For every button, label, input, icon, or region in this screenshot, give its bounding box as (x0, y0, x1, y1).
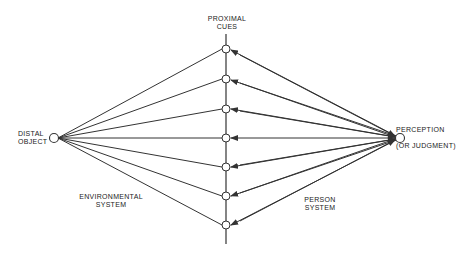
lens-model-diagram (0, 0, 461, 255)
perception-label: PERCEPTION (OR JUDGMENT) (396, 126, 456, 150)
proximal-cues-label: PROXIMAL CUES (205, 15, 249, 31)
distal-object-node (50, 134, 59, 143)
distal-object-label: DISTAL OBJECT (18, 130, 47, 146)
person-system-label: PERSON SYSTEM (300, 196, 340, 212)
environmental-system-label: ENVIRONMENTAL SYSTEM (76, 193, 146, 209)
